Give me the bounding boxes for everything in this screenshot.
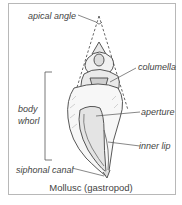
- body-whorl-bracket: [45, 72, 52, 160]
- label-aperture: aperture: [141, 107, 175, 117]
- label-body-whorl-2: whorl: [18, 116, 40, 126]
- label-apical-angle: apical angle: [28, 11, 76, 21]
- label-columella: columella: [138, 62, 176, 72]
- label-inner-lip: inner lip: [139, 141, 171, 151]
- shell: [68, 42, 123, 178]
- label-body-whorl-1: body: [18, 104, 38, 114]
- diagram-caption: Mollusc (gastropod): [0, 182, 182, 193]
- label-siphonal-canal: siphonal canal: [16, 165, 74, 175]
